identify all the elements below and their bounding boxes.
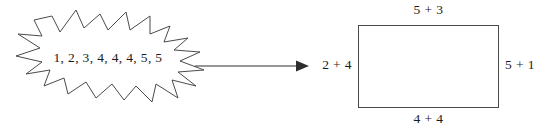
rectangle-label-top: 5 + 3 — [358, 2, 499, 18]
rectangle-label-bottom: 4 + 4 — [358, 111, 499, 127]
rectangle-label-left: 2 + 4 — [322, 57, 352, 73]
rectangle-label-right: 5 + 1 — [505, 57, 535, 73]
arrow-right-icon — [193, 55, 313, 77]
rectangle-shape — [358, 25, 499, 108]
diagram-canvas: 1, 2, 3, 4, 4, 4, 5, 5 5 + 3 5 + 1 4 + 4… — [0, 0, 551, 136]
starburst-values-label: 1, 2, 3, 4, 4, 4, 5, 5 — [8, 50, 208, 66]
starburst-group: 1, 2, 3, 4, 4, 4, 5, 5 — [8, 4, 208, 108]
rectangle-group: 5 + 3 5 + 1 4 + 4 2 + 4 — [358, 25, 499, 108]
